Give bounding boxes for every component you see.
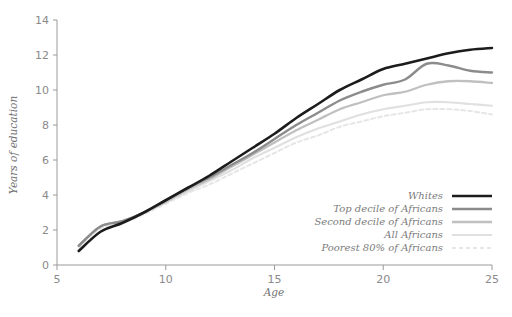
- education-by-age-line-chart: 02468101214 510152025 WhitesTop decile o…: [0, 0, 512, 317]
- x-tick-label: 15: [268, 273, 282, 286]
- legend-item-label: Whites: [408, 190, 443, 201]
- y-tick-label: 0: [42, 259, 49, 272]
- y-tick-label: 2: [42, 224, 49, 237]
- legend-item-label: All Africans: [383, 229, 443, 240]
- legend-item-label: Second decile of Africans: [314, 216, 443, 227]
- legend-item-label: Poorest 80% of Africans: [320, 242, 443, 253]
- x-tick-label: 5: [54, 273, 61, 286]
- x-tick-label: 25: [485, 273, 499, 286]
- y-tick-label: 8: [42, 119, 49, 132]
- y-axis-title: Years of education: [7, 96, 19, 195]
- legend-item-label: Top decile of Africans: [333, 203, 443, 214]
- chart-canvas: 02468101214 510152025 WhitesTop decile o…: [0, 0, 512, 317]
- x-tick-label: 20: [376, 273, 390, 286]
- y-tick-label: 4: [42, 189, 49, 202]
- chart-background: [0, 0, 512, 317]
- y-tick-label: 14: [35, 14, 49, 27]
- y-tick-label: 10: [35, 84, 49, 97]
- y-tick-label: 6: [42, 154, 49, 167]
- x-axis-title: Age: [263, 286, 285, 298]
- x-tick-label: 10: [159, 273, 173, 286]
- y-tick-label: 12: [35, 49, 49, 62]
